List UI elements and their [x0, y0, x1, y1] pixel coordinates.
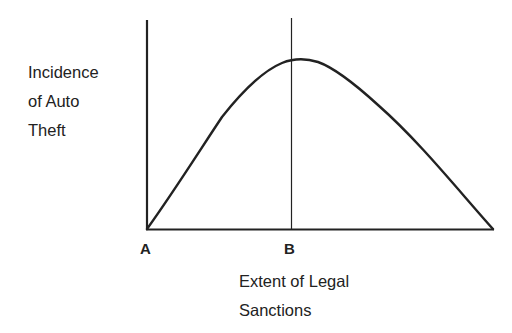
x-marker-a: A [140, 240, 151, 257]
auto-theft-curve [147, 59, 493, 229]
x-marker-b: B [284, 240, 295, 257]
x-axis-label-line-2: Sanctions [239, 296, 349, 325]
x-axis-label: Extent of Legal Sanctions [239, 267, 349, 325]
x-axis-label-line-1: Extent of Legal [239, 267, 349, 296]
